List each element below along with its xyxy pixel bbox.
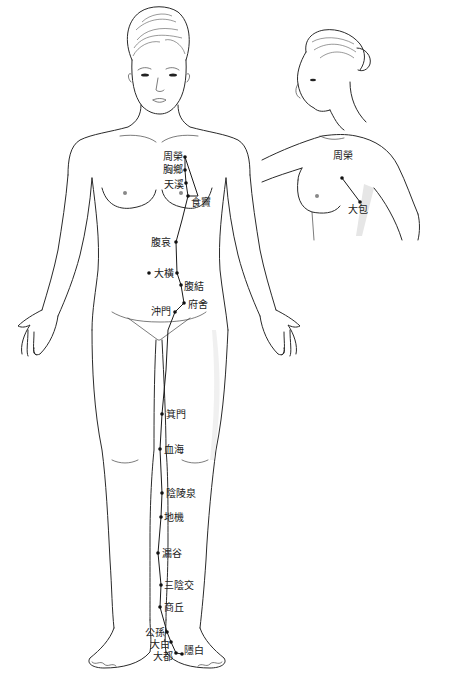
- acupoint-label: 府舍: [188, 299, 208, 310]
- side-meridian-line: [342, 178, 360, 202]
- acupoint-label: 漏谷: [162, 548, 182, 559]
- acupoint-label: 胸鄉: [163, 164, 183, 175]
- acupoint-dot: [158, 605, 162, 609]
- acupoint-label: 周榮: [333, 150, 353, 161]
- acupoint-label: 地機: [164, 512, 184, 523]
- acupoint-label: 食竇: [191, 197, 211, 208]
- acupoint-dot: [175, 271, 179, 275]
- acupoint-dot: [158, 447, 162, 451]
- acupoint-dot: [340, 176, 344, 180]
- acupoint-label: 大白: [150, 639, 170, 650]
- acupoint-label: 腹哀: [151, 237, 171, 248]
- acupoint-dot: [165, 630, 169, 634]
- acupoint-dot: [147, 271, 151, 275]
- acupoint-label: 隱白: [184, 645, 204, 656]
- acupoint-dot: [159, 515, 163, 519]
- acupoint-label: 大都: [153, 651, 173, 662]
- acupoint-label: 箕門: [166, 409, 186, 420]
- acupoint-dot: [159, 583, 163, 587]
- acupoint-dot: [184, 181, 188, 185]
- acupoint-dot: [160, 491, 164, 495]
- side-figure: [262, 30, 420, 240]
- figure-canvas: [0, 0, 451, 680]
- acupoint-label: 大包: [348, 204, 368, 215]
- hair-outline: [127, 7, 189, 60]
- acupoint-dot: [182, 301, 186, 305]
- acupoint-dot: [179, 283, 183, 287]
- acupoint-label: 三陰交: [164, 580, 194, 591]
- acupoint-dot: [174, 651, 178, 655]
- acupoint-dot: [174, 240, 178, 244]
- acupoint-label: 周榮: [163, 151, 183, 162]
- acupoint-label: 陰陵泉: [166, 488, 196, 499]
- acupoint-label: 腹結: [184, 281, 204, 292]
- acupoint-dot: [173, 310, 177, 314]
- acupoint-label: 血海: [164, 444, 184, 455]
- breast-left: [102, 188, 156, 208]
- acupoint-dot: [160, 412, 164, 416]
- acupoint-label: 商丘: [164, 602, 184, 613]
- acupoint-label: 公孫: [145, 627, 165, 638]
- acupoint-dot: [186, 194, 190, 198]
- acupoint-label: 大橫: [154, 268, 174, 279]
- acupoint-label: 天溪: [164, 179, 184, 190]
- acupoint-dot: [156, 551, 160, 555]
- acupoint-label: 沖門: [151, 306, 171, 317]
- acupoint-dot: [183, 155, 187, 159]
- acupoint-dot: [183, 168, 187, 172]
